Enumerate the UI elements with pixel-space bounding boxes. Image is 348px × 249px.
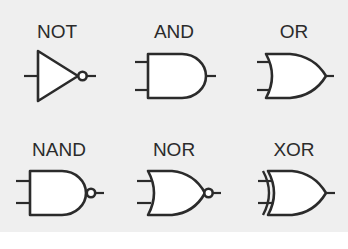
bottom-margin — [0, 232, 348, 249]
xor-gate-icon — [258, 171, 335, 215]
not-gate-icon — [24, 51, 96, 101]
and-gate-icon — [135, 54, 216, 98]
nor-gate-icon — [137, 171, 221, 215]
nand-gate-icon — [16, 171, 104, 215]
or-gate-icon — [257, 54, 334, 98]
logic-gates-diagram: NOT AND OR NAND NOR XOR — [0, 0, 348, 249]
